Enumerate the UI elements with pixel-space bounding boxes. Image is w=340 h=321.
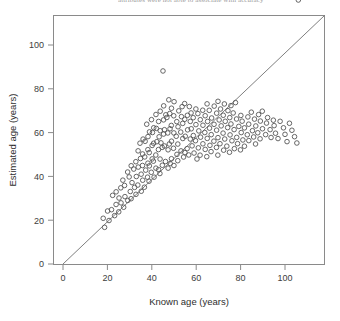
data-point: [176, 109, 181, 114]
data-point: [122, 183, 127, 188]
data-point: [216, 99, 221, 104]
data-point: [198, 117, 203, 122]
data-point: [207, 108, 212, 113]
data-point: [241, 138, 246, 143]
data-point: [176, 142, 181, 147]
data-point: [144, 122, 149, 127]
data-point: [198, 135, 203, 140]
data-point: [212, 122, 217, 127]
x-tick-label: 80: [236, 273, 246, 283]
data-point: [295, 141, 300, 146]
data-point: [117, 196, 122, 201]
data-point: [112, 213, 117, 218]
x-tick-label: 100: [277, 273, 292, 283]
data-point: [116, 210, 121, 215]
data-point: [102, 225, 107, 230]
data-point: [136, 183, 141, 188]
data-point: [158, 109, 163, 114]
x-axis-ticks: [63, 265, 285, 270]
data-point: [218, 141, 223, 146]
data-point: [214, 111, 219, 116]
data-point: [204, 154, 209, 159]
data-point: [203, 113, 208, 118]
data-point: [157, 135, 162, 140]
data-point: [230, 138, 235, 143]
data-point: [225, 144, 230, 149]
data-point: [227, 115, 232, 120]
data-point: [222, 137, 227, 142]
data-point: [193, 138, 198, 143]
data-point: [166, 166, 171, 171]
data-point: [209, 149, 214, 154]
data-point: [263, 132, 268, 137]
data-point: [127, 175, 132, 180]
data-point: [231, 111, 236, 116]
data-point: [272, 123, 277, 128]
data-point: [175, 158, 180, 163]
data-point: [167, 98, 172, 103]
data-point: [251, 135, 256, 140]
data-point: [264, 121, 269, 126]
y-tick-label: 80: [34, 84, 44, 94]
data-point: [205, 136, 210, 141]
data-point: [229, 122, 234, 127]
data-point: [216, 135, 221, 140]
data-point: [214, 145, 219, 150]
data-point: [187, 104, 192, 109]
data-point: [158, 157, 163, 162]
x-axis-tick-labels: 0 20 40 60 80 100: [60, 273, 292, 283]
y-axis-title: Estimated age (years): [7, 94, 18, 187]
data-point: [192, 151, 197, 156]
data-point: [128, 189, 133, 194]
data-point: [240, 119, 245, 124]
data-point: [153, 153, 158, 158]
data-point: [237, 124, 242, 129]
data-point: [131, 167, 136, 172]
data-point: [186, 153, 191, 158]
data-point: [194, 122, 199, 127]
data-point: [292, 134, 297, 139]
data-point: [200, 108, 205, 113]
data-point: [209, 132, 214, 137]
data-point: [234, 117, 239, 122]
data-point: [150, 130, 155, 135]
data-point: [191, 115, 196, 120]
data-point: [239, 130, 244, 135]
data-point: [235, 141, 240, 146]
data-point: [256, 112, 261, 117]
data-point: [207, 126, 212, 131]
data-point: [260, 109, 265, 114]
data-point: [189, 111, 194, 116]
data-point: [125, 170, 130, 175]
data-point: [246, 115, 251, 120]
data-point: [222, 102, 227, 107]
data-point: [203, 147, 208, 152]
data-point: [161, 104, 166, 109]
data-point: [176, 124, 181, 129]
data-point: [285, 139, 290, 144]
data-point: [114, 190, 119, 195]
data-point: [196, 111, 201, 116]
data-point: [228, 133, 233, 138]
data-point: [208, 143, 213, 148]
data-point: [201, 142, 206, 147]
data-point: [136, 149, 141, 154]
data-point: [121, 178, 126, 183]
data-point: [169, 106, 174, 111]
data-point: [194, 107, 199, 112]
data-point: [205, 102, 210, 107]
data-point: [238, 148, 243, 153]
y-tick-label: 20: [34, 216, 44, 226]
data-point: [134, 174, 139, 179]
y-tick-label: 0: [39, 259, 44, 269]
data-point: [271, 118, 276, 123]
data-point: [260, 126, 265, 131]
data-point: [221, 148, 226, 153]
data-point: [139, 172, 144, 177]
data-point: [249, 110, 254, 115]
plot-frame: [54, 16, 325, 265]
data-point: [232, 127, 237, 132]
data-point: [276, 136, 281, 141]
data-point: [247, 138, 252, 143]
data-point: [214, 128, 219, 133]
